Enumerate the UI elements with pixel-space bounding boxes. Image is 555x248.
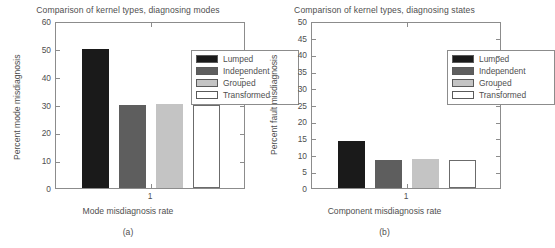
y-axis-label-b: Percent fault misdiagnosis — [269, 55, 279, 155]
y-tick-mark — [56, 50, 60, 51]
y-tick-mark — [496, 39, 500, 40]
legend-b: LumpedIndependentGroupedTransformed — [447, 50, 555, 105]
y-tick-mark — [312, 73, 316, 74]
legend-item-lumped: Lumped — [452, 53, 550, 65]
y-tick-label: 5 — [302, 167, 307, 177]
legend-swatch-icon — [196, 55, 218, 63]
legend-label: Lumped — [479, 54, 509, 64]
chart-title-a: Comparison of kernel types, diagnosing m… — [0, 5, 256, 15]
y-tick-label: 35 — [298, 67, 307, 77]
x-tick-mark — [151, 23, 152, 27]
y-tick-label: 45 — [298, 34, 307, 44]
legend-label: Grouped — [223, 78, 256, 88]
y-tick-mark — [240, 134, 244, 135]
y-tick-mark — [240, 162, 244, 163]
legend-label: Grouped — [479, 78, 512, 88]
y-tick-label: 40 — [42, 73, 51, 83]
legend-swatch-icon — [196, 79, 218, 87]
y-tick-label: 30 — [42, 101, 51, 111]
legend-item-grouped: Grouped — [452, 77, 550, 89]
y-tick-mark — [240, 50, 244, 51]
bar-grouped — [412, 159, 439, 188]
y-tick-mark — [312, 139, 316, 140]
y-tick-label: 60 — [42, 17, 51, 27]
bar-independent — [119, 105, 146, 188]
bar-series-a — [56, 23, 244, 188]
subcaption-a: (a) — [0, 227, 256, 237]
subcaption-b: (b) — [256, 227, 513, 237]
legend-label: Transformed — [479, 90, 526, 100]
x-axis-label-a: Mode misdiagnosis rate — [0, 206, 256, 216]
y-tick-mark — [496, 123, 500, 124]
y-tick-mark — [312, 123, 316, 124]
y-tick-label: 15 — [298, 134, 307, 144]
y-tick-mark — [240, 106, 244, 107]
y-tick-mark — [496, 89, 500, 90]
y-tick-mark — [496, 106, 500, 107]
y-tick-mark — [312, 106, 316, 107]
plot-area-b: LumpedIndependentGroupedTransformed — [311, 22, 501, 189]
y-tick-label: 0 — [46, 184, 51, 194]
y-tick-mark — [56, 162, 60, 163]
y-tick-label: 50 — [298, 17, 307, 27]
y-tick-label: 0 — [302, 184, 307, 194]
y-tick-mark — [496, 73, 500, 74]
y-tick-mark — [496, 139, 500, 140]
y-tick-label: 10 — [298, 151, 307, 161]
x-axis-label-b: Component misdiagnosis rate — [256, 206, 513, 216]
bar-transformed — [193, 105, 220, 188]
y-tick-label: 30 — [298, 84, 307, 94]
y-tick-label: 50 — [42, 45, 51, 55]
y-tick-mark — [312, 173, 316, 174]
bar-independent — [375, 160, 402, 188]
y-tick-label: 10 — [42, 156, 51, 166]
y-axis-ticks-b: 05101520253035404550 — [275, 22, 307, 189]
legend-label: Lumped — [223, 54, 253, 64]
bar-lumped — [82, 49, 109, 188]
x-tick-label-a: 1 — [148, 191, 153, 201]
legend-swatch-icon — [196, 91, 218, 99]
chart-panel-a: Comparison of kernel types, diagnosing m… — [0, 0, 256, 248]
legend-swatch-icon — [452, 91, 474, 99]
legend-label: Independent — [479, 66, 526, 76]
y-tick-mark — [496, 56, 500, 57]
y-tick-mark — [240, 78, 244, 79]
x-tick-mark — [151, 184, 152, 188]
y-axis-ticks-a: 0102030405060 — [19, 22, 51, 189]
x-tick-mark — [407, 23, 408, 27]
legend-swatch-icon — [452, 79, 474, 87]
y-tick-mark — [496, 173, 500, 174]
y-tick-mark — [312, 156, 316, 157]
y-tick-mark — [312, 39, 316, 40]
legend-swatch-icon — [452, 67, 474, 75]
legend-swatch-icon — [196, 67, 218, 75]
y-tick-mark — [496, 156, 500, 157]
y-tick-mark — [312, 56, 316, 57]
y-tick-mark — [312, 89, 316, 90]
legend-swatch-icon — [452, 55, 474, 63]
bar-series-b — [312, 23, 500, 188]
chart-panel-b: Comparison of kernel types, diagnosing s… — [256, 0, 513, 248]
bar-grouped — [156, 104, 183, 188]
x-tick-mark — [407, 184, 408, 188]
legend-item-transformed: Transformed — [452, 89, 550, 101]
y-tick-mark — [56, 78, 60, 79]
y-tick-mark — [56, 106, 60, 107]
bar-transformed — [449, 160, 476, 188]
y-tick-mark — [56, 134, 60, 135]
y-axis-label-a: Percent mode misdiagnosis — [12, 54, 22, 160]
bar-lumped — [338, 141, 365, 188]
plot-area-a: LumpedIndependentGroupedTransformed — [55, 22, 245, 189]
chart-title-b: Comparison of kernel types, diagnosing s… — [256, 5, 513, 15]
y-tick-label: 25 — [298, 101, 307, 111]
y-tick-label: 20 — [42, 128, 51, 138]
x-tick-label-b: 1 — [404, 191, 409, 201]
y-tick-label: 20 — [298, 117, 307, 127]
y-tick-label: 40 — [298, 50, 307, 60]
legend-item-independent: Independent — [452, 65, 550, 77]
